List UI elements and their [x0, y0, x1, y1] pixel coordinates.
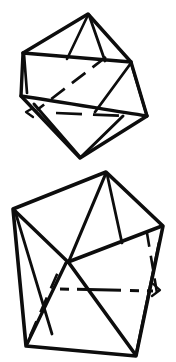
polyhedra-drawing-canvas	[0, 0, 176, 362]
upper-polyhedron-visible-edge-3	[21, 53, 23, 96]
figure-sheet: Two hand-drawn polyhedron line drawings	[0, 0, 176, 362]
lower-polyhedron-hidden-edge-0	[62, 289, 155, 291]
